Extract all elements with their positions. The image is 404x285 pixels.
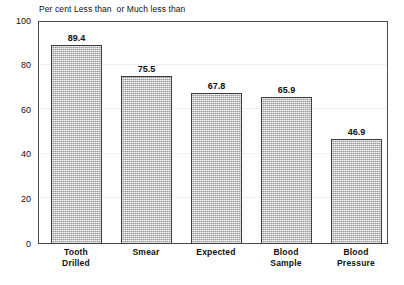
bar-value-label: 65.9 — [261, 85, 312, 95]
y-tick-label: 0 — [0, 240, 34, 249]
y-tick-label: 80 — [0, 61, 34, 70]
bar[interactable] — [191, 93, 242, 244]
y-axis: 020406080100 — [0, 21, 34, 244]
bar-value-label: 89.4 — [51, 33, 102, 43]
bar-value-label: 46.9 — [331, 127, 382, 137]
bar-value-label: 75.5 — [121, 64, 172, 74]
bar[interactable] — [261, 97, 312, 244]
x-tick-label: Blood Sample — [250, 247, 322, 269]
bars-container: 89.475.567.865.946.9 — [38, 21, 388, 244]
x-tick-label: Expected — [180, 247, 252, 258]
x-tick-label: Blood Pressure — [320, 247, 392, 269]
bar-chart: Per cent Less than or Much less than 020… — [0, 0, 404, 285]
bar[interactable] — [331, 139, 382, 244]
bar-value-label: 67.8 — [191, 81, 242, 91]
bar-group: 65.9 — [261, 21, 312, 244]
x-tick-label: Tooth Drilled — [40, 247, 112, 269]
y-tick-label: 100 — [0, 17, 34, 26]
y-tick-label: 20 — [0, 195, 34, 204]
chart-title: Per cent Less than or Much less than — [39, 4, 185, 15]
bar-group: 46.9 — [331, 21, 382, 244]
x-tick-label: Smear — [110, 247, 182, 258]
y-tick-label: 40 — [0, 150, 34, 159]
x-axis: Tooth DrilledSmearExpectedBlood SampleBl… — [38, 247, 388, 281]
y-tick-label: 60 — [0, 106, 34, 115]
bar[interactable] — [121, 76, 172, 244]
bar[interactable] — [51, 45, 102, 244]
bar-group: 89.4 — [51, 21, 102, 244]
bar-group: 67.8 — [191, 21, 242, 244]
bar-group: 75.5 — [121, 21, 172, 244]
